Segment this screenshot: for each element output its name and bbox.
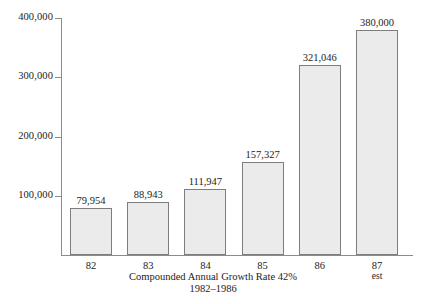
bar-value-label: 79,954 (59, 195, 123, 206)
bar-value-label: 111,947 (173, 176, 237, 187)
bar-series: 79,9548288,94383111,94784157,32785321,04… (0, 0, 426, 304)
plot-area: 100,000200,000300,000400,000 79,9548288,… (0, 0, 426, 304)
bar[interactable] (299, 65, 341, 255)
bar[interactable] (242, 162, 284, 255)
bar-value-label: 321,046 (288, 52, 352, 63)
x-axis-category-label: 82 (59, 260, 123, 271)
x-axis-category-label: 84 (173, 260, 237, 271)
caption-line-2: 1982–1986 (0, 283, 426, 295)
caption-line-1: Compounded Annual Growth Rate 42% (129, 271, 297, 282)
bar[interactable] (70, 208, 112, 255)
bar-value-label: 157,327 (231, 149, 295, 160)
bar-value-label: 380,000 (345, 17, 409, 28)
bar[interactable] (356, 30, 398, 255)
bar[interactable] (127, 202, 169, 255)
bar[interactable] (184, 189, 226, 255)
x-axis-category-label: 83 (116, 260, 180, 271)
x-axis-category-label: 85 (231, 260, 295, 271)
x-axis-category-label: 86 (288, 260, 352, 271)
chart-caption: Compounded Annual Growth Rate 42% 1982–1… (0, 271, 426, 295)
bar-value-label: 88,943 (116, 189, 180, 200)
bar-chart: 100,000200,000300,000400,000 79,9548288,… (0, 0, 426, 304)
